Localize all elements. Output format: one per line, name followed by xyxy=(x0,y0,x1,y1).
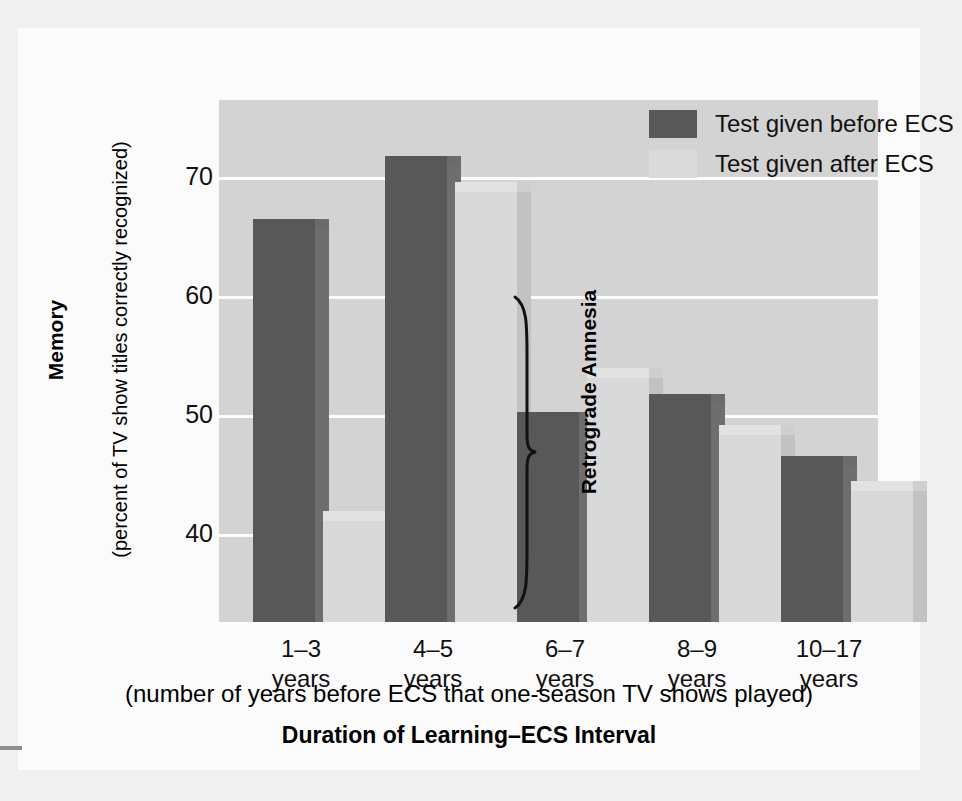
bar-top xyxy=(385,156,447,166)
bar-face xyxy=(385,166,447,622)
bar-top-side xyxy=(315,219,329,229)
x-axis-subtitle: (number of years before ECS that one-sea… xyxy=(18,680,920,708)
bar-face xyxy=(719,435,781,622)
plot-area: Test given before ECS Test given after E… xyxy=(219,100,878,626)
bar-face xyxy=(253,229,315,622)
retrograde-amnesia-bracket-icon xyxy=(511,295,537,610)
bar-top-side xyxy=(913,481,927,491)
bar-face xyxy=(455,192,517,622)
y-tick-40: 40 xyxy=(153,521,213,546)
legend-item-before-ecs[interactable]: Test given before ECS xyxy=(649,108,962,140)
bar-after-ecs-5[interactable] xyxy=(851,491,913,622)
bar-before-ecs-5[interactable] xyxy=(781,466,843,622)
bar-top xyxy=(851,481,913,491)
x-axis-title: Duration of Learning–ECS Interval xyxy=(18,722,920,749)
bar-top-side xyxy=(843,456,857,466)
bar-top xyxy=(719,425,781,435)
bar-top xyxy=(781,456,843,466)
x-tick-range: 6–7 xyxy=(490,634,640,664)
y-axis-title: Memory xyxy=(44,240,68,440)
chart-page: Test given before ECS Test given after E… xyxy=(0,0,962,801)
figure-card: Test given before ECS Test given after E… xyxy=(18,28,920,770)
bar-before-ecs-2[interactable] xyxy=(385,166,447,622)
y-tick-60: 60 xyxy=(153,283,213,308)
bar-after-ecs-4[interactable] xyxy=(719,435,781,622)
bar-group-1-3-years xyxy=(253,100,403,622)
page-edge-marker xyxy=(0,746,22,750)
y-axis-subtitle: (percent of TV show titles correctly rec… xyxy=(109,120,132,580)
bar-before-ecs-4[interactable] xyxy=(649,404,711,622)
bar-top xyxy=(253,219,315,229)
legend-label-after-ecs: Test given after ECS xyxy=(715,150,934,178)
x-tick-range: 8–9 xyxy=(622,634,772,664)
bar-top xyxy=(323,511,385,521)
bar-after-ecs-2[interactable] xyxy=(455,192,517,622)
bar-top-side xyxy=(447,156,461,166)
bar-side xyxy=(913,491,927,622)
x-tick-range: 4–5 xyxy=(358,634,508,664)
legend-swatch-before-ecs xyxy=(649,110,697,138)
bar-top xyxy=(649,394,711,404)
y-axis-ticks: 70 60 50 40 xyxy=(143,100,213,626)
bar-before-ecs-1[interactable] xyxy=(253,229,315,622)
bar-face xyxy=(323,521,385,622)
legend-label-before-ecs: Test given before ECS xyxy=(715,110,954,138)
y-tick-70: 70 xyxy=(153,164,213,189)
bar-face xyxy=(851,491,913,622)
x-tick-range: 10–17 xyxy=(754,634,904,664)
bar-face xyxy=(649,404,711,622)
legend-item-after-ecs[interactable]: Test given after ECS xyxy=(649,148,962,180)
chart-legend: Test given before ECS Test given after E… xyxy=(649,108,962,188)
bar-top xyxy=(455,182,517,192)
retrograde-amnesia-label: Retrograde Amnesia xyxy=(577,277,601,507)
bar-top-side xyxy=(711,394,725,404)
legend-swatch-after-ecs xyxy=(649,150,697,178)
y-tick-50: 50 xyxy=(153,402,213,427)
bar-after-ecs-1[interactable] xyxy=(323,521,385,622)
bar-face xyxy=(781,466,843,622)
x-tick-range: 1–3 xyxy=(226,634,376,664)
